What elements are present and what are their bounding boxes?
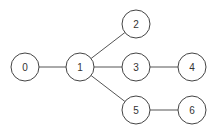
node-label: 5 [133, 105, 139, 116]
node-label: 3 [133, 62, 139, 73]
node-6: 6 [178, 96, 206, 124]
node-3: 3 [122, 53, 150, 81]
node-4: 4 [178, 53, 206, 81]
edges-group [39, 33, 178, 110]
node-0: 0 [11, 53, 39, 81]
tree-graph: 0123456 [0, 0, 217, 133]
node-label: 1 [77, 62, 83, 73]
node-5: 5 [122, 96, 150, 124]
edge-1-5 [91, 76, 125, 102]
node-label: 0 [22, 62, 28, 73]
edge-1-2 [91, 33, 125, 59]
node-1: 1 [66, 53, 94, 81]
tree-diagram: 0123456 [0, 0, 217, 133]
node-2: 2 [122, 10, 150, 38]
node-label: 6 [189, 105, 195, 116]
node-label: 4 [189, 62, 195, 73]
node-label: 2 [133, 19, 139, 30]
